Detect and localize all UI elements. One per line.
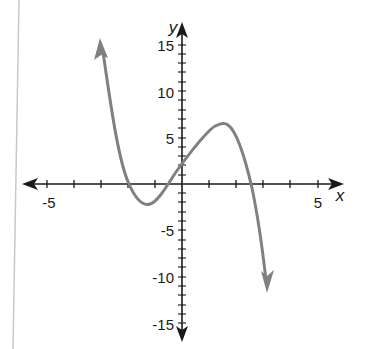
x-axis-label: x [335, 186, 345, 205]
y-tick-label-10: 10 [157, 84, 174, 101]
y-tick-label-neg5: -5 [161, 222, 174, 239]
curve-bottom-arrow-icon [261, 270, 274, 293]
y-tick-label-15: 15 [157, 37, 174, 54]
curve-top-arrow-icon [94, 38, 108, 60]
y-axis-label: y [168, 18, 179, 37]
y-tick-label-neg15: -15 [152, 316, 174, 333]
cubic-function-graph: -5 5 x [0, 0, 370, 349]
x-axis: -5 5 x [22, 178, 345, 211]
y-tick-label-neg10: -10 [152, 269, 174, 286]
page-edge-line [13, 0, 19, 349]
y-tick-label-5: 5 [166, 130, 174, 147]
x-tick-label-5: 5 [314, 194, 322, 211]
x-tick-label-neg5: -5 [42, 194, 55, 211]
